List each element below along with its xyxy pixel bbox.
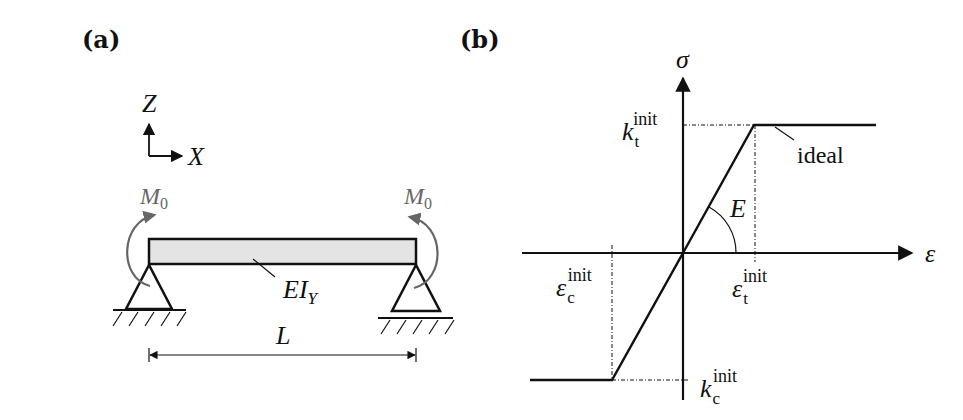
epsilon-c-label: εcinit (556, 265, 592, 307)
x-axis-label: X (187, 142, 205, 171)
k-c-label: kcinit (700, 366, 737, 408)
right-roller-support (378, 265, 454, 334)
panel-a: (a) Z X EIY (82, 25, 454, 362)
z-axis-label: Z (142, 89, 157, 118)
epsilon-axis-label: ε (925, 239, 936, 268)
figure-canvas: (a) Z X EIY (0, 0, 963, 420)
left-pin-support (113, 265, 186, 326)
left-moment-label: M0 (139, 183, 168, 212)
panel-a-label: (a) (82, 25, 120, 54)
span-label: L (275, 321, 290, 350)
left-moment-arrow-icon: M0 (127, 183, 168, 286)
modulus-label: E (729, 194, 746, 223)
sigma-axis-label: σ (676, 45, 690, 74)
panel-b: (b) σ ε E ideal ktinit kcinit (460, 25, 936, 408)
stiffness-label: EIY (282, 275, 319, 308)
ideal-leader-line (775, 127, 794, 140)
span-dimension: L (149, 321, 416, 362)
k-t-label: ktinit (622, 109, 657, 151)
right-moment-label: M0 (403, 183, 432, 212)
epsilon-t-label: εtinit (732, 266, 767, 308)
coordinate-axes-icon: Z X (142, 89, 205, 171)
beam (149, 239, 416, 264)
panel-b-label: (b) (460, 25, 500, 54)
ideal-label: ideal (797, 142, 844, 168)
